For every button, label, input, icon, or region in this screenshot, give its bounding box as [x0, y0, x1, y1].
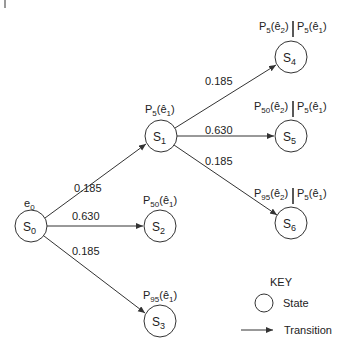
state-node-s0: S0 [15, 210, 47, 242]
legend: KEY State Transition [241, 276, 332, 336]
state-node-s3: S3 [144, 305, 176, 337]
annotation-s2: P50(ê1) [143, 194, 177, 209]
state-transition-diagram: 0.185 0.630 0.185 0.185 0.630 0.185 S0 S… [0, 0, 346, 350]
legend-state-icon [255, 294, 273, 312]
prob-label-s0-s3: 0.185 [72, 245, 100, 257]
annotation-s0: e0 [24, 197, 35, 212]
svg-text:P95(ê2): P95(ê2) [254, 187, 288, 202]
svg-text:P5(ê1): P5(ê1) [297, 187, 327, 202]
state-node-s2: S2 [144, 210, 176, 242]
annotation-s3: P95(ê1) [143, 289, 177, 304]
prob-label-s1-s5: 0.630 [205, 124, 233, 136]
svg-text:P5(ê1): P5(ê1) [297, 100, 327, 115]
svg-text:P50(ê2): P50(ê2) [254, 100, 288, 115]
svg-text:P5(ê1): P5(ê1) [297, 20, 327, 35]
edge-s0-s1 [45, 144, 146, 218]
svg-text:P5(ê2): P5(ê2) [259, 20, 289, 35]
state-node-s4: S4 [275, 41, 307, 73]
legend-title: KEY [270, 276, 293, 288]
annotation-s6: P95(ê2) P5(ê1) [254, 187, 327, 204]
annotation-s1: P5(ê1) [145, 103, 175, 118]
prob-label-s1-s4: 0.185 [205, 75, 233, 87]
legend-transition-label: Transition [284, 324, 332, 336]
annotation-s4: P5(ê2) P5(ê1) [259, 20, 327, 37]
annotation-s5: P50(ê2) P5(ê1) [254, 100, 327, 117]
prob-label-s0-s1: 0.185 [74, 182, 102, 194]
prob-label-s0-s2: 0.630 [72, 210, 100, 222]
state-node-s1: S1 [145, 120, 177, 152]
state-node-s5: S5 [275, 120, 307, 152]
state-node-s6: S6 [275, 207, 307, 239]
prob-label-s1-s6: 0.185 [205, 155, 233, 167]
legend-state-label: State [283, 297, 309, 309]
